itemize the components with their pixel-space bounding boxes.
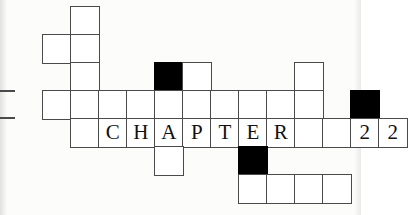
cell-r3c4: [126, 90, 156, 120]
cell-r3c3: [98, 90, 128, 120]
grid-stub-left-top: [0, 90, 15, 92]
cell-letter: P: [191, 122, 203, 143]
cell-r3c12: [350, 90, 380, 120]
cell-r4c9: R: [266, 118, 296, 148]
cell-r6c8: [238, 174, 268, 204]
cell-r4c2: [70, 118, 100, 148]
cell-r3c8: [238, 90, 268, 120]
cell-r4c4: H: [126, 118, 156, 148]
cell-letter: C: [106, 122, 120, 143]
cell-r4c5: A: [154, 118, 184, 148]
cell-r4c6: P: [182, 118, 212, 148]
cell-r4c12: 2: [350, 118, 380, 148]
cell-letter: A: [161, 122, 176, 143]
cell-r0c2: [70, 6, 100, 36]
cell-letter: E: [246, 122, 259, 143]
cell-letter: 2: [360, 122, 371, 143]
cell-r2c10: [294, 62, 324, 92]
grid-stub-left-bottom: [0, 117, 15, 119]
cell-r3c2: [70, 90, 100, 120]
cell-letter: R: [274, 122, 288, 143]
cell-r4c11: [322, 118, 352, 148]
cell-r5c5: [154, 146, 184, 176]
cell-r6c10: [294, 174, 324, 204]
cell-r4c8: E: [238, 118, 268, 148]
cell-r2c6: [182, 62, 212, 92]
cell-r3c6: [182, 90, 212, 120]
cell-r3c5: [154, 90, 184, 120]
cell-r2c2: [70, 62, 100, 92]
page-edge-left-shadow: [0, 0, 7, 215]
cell-letter: H: [133, 122, 148, 143]
cell-letter: T: [218, 122, 231, 143]
cell-r4c3: C: [98, 118, 128, 148]
cell-r3c10: [294, 90, 324, 120]
cell-r2c5: [154, 62, 184, 92]
cell-r6c11: [322, 174, 352, 204]
cell-r4c10: [294, 118, 324, 148]
cell-r5c8: [238, 146, 268, 176]
cell-r3c1: [42, 90, 72, 120]
cell-r6c9: [266, 174, 296, 204]
cell-r4c13: 2: [378, 118, 408, 148]
cell-r4c7: T: [210, 118, 240, 148]
cell-r1c2: [70, 34, 100, 64]
cell-r3c9: [266, 90, 296, 120]
cell-r1c1: [42, 34, 72, 64]
cell-r3c7: [210, 90, 240, 120]
cell-letter: 2: [388, 122, 399, 143]
